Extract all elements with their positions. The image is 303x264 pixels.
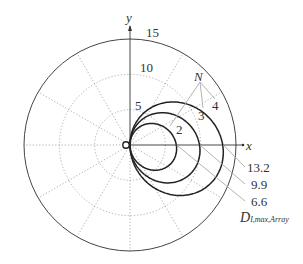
n-leader-4 xyxy=(200,82,215,99)
origin-marker xyxy=(123,142,129,148)
angular-grid-line xyxy=(38,92,130,145)
dmax-leader-line xyxy=(177,145,245,201)
angular-grid-line xyxy=(77,145,130,237)
x-axis-arrow-dot xyxy=(242,144,245,147)
radial-tick-15: 15 xyxy=(146,26,159,39)
dmax-label-main: D xyxy=(240,210,250,225)
n-value-4: 4 xyxy=(212,99,219,112)
dmax-value-9-9: 9.9 xyxy=(251,178,267,191)
directivity-curve-n2 xyxy=(130,124,177,171)
dmax-leader-line xyxy=(200,145,245,184)
dmax-value-6-6: 6.6 xyxy=(251,195,267,208)
n-leader-3 xyxy=(200,82,203,108)
dmax-value-13-2: 13.2 xyxy=(247,161,270,174)
angular-grid-line xyxy=(38,145,130,198)
x-axis-label: x xyxy=(246,139,252,152)
radial-tick-10: 10 xyxy=(140,61,153,74)
n-value-2: 2 xyxy=(176,123,183,136)
polar-diagram: y 15 10 5 x N 2 3 4 13.2 9.9 6.6 DI,max,… xyxy=(0,0,303,264)
dmax-label: DI,max,Array xyxy=(240,211,289,225)
radial-tick-5: 5 xyxy=(135,99,142,112)
directivity-curve-n3 xyxy=(130,113,200,183)
n-value-3: 3 xyxy=(198,109,205,122)
n-label: N xyxy=(194,70,203,83)
angular-grid-line xyxy=(77,53,130,145)
y-axis-arrow xyxy=(128,25,132,31)
y-axis-label: y xyxy=(126,11,132,24)
dmax-label-sub: I,max,Array xyxy=(250,215,289,224)
